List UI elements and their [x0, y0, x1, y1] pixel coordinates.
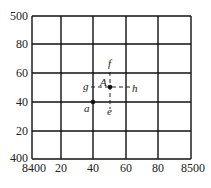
- grid-diagram: A a f e g h 500 80 60 40 20 400 8400 20 …: [0, 0, 211, 188]
- dashed-crosshair: [91, 72, 130, 109]
- point-a: [91, 100, 96, 105]
- label-h: h: [132, 82, 138, 94]
- x-tick: 80: [152, 161, 164, 175]
- y-tick: 80: [16, 37, 28, 51]
- label-f: f: [108, 57, 113, 69]
- x-tick: 20: [55, 161, 67, 175]
- x-tick: 40: [87, 161, 99, 175]
- point-A: [108, 85, 113, 90]
- x-tick: 8400: [22, 161, 46, 175]
- y-tick: 60: [16, 66, 28, 80]
- x-tick: 60: [120, 161, 132, 175]
- label-e: e: [107, 105, 112, 117]
- y-axis-ticks: 500 80 60 40 20 400: [10, 9, 28, 165]
- y-tick: 500: [10, 9, 28, 23]
- label-a: a: [84, 102, 90, 114]
- y-tick: 20: [16, 124, 28, 138]
- label-A: A: [99, 76, 107, 88]
- x-tick: 8500: [181, 161, 205, 175]
- y-tick: 40: [16, 95, 28, 109]
- label-g: g: [83, 80, 89, 92]
- x-axis-ticks: 8400 20 40 60 80 8500: [22, 161, 205, 175]
